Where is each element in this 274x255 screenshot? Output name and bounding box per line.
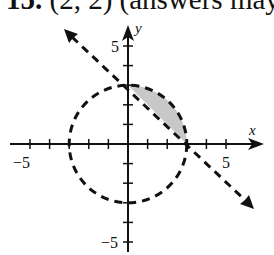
x-tick-label-neg5: −5 xyxy=(13,154,30,171)
graph: x y −5 5 5 −5 xyxy=(0,0,274,255)
y-axis-label: y xyxy=(133,20,142,36)
line-arrow-lower-icon xyxy=(240,195,254,209)
x-tick-label-5: 5 xyxy=(222,154,230,171)
y-tick-label-neg5: −5 xyxy=(101,234,118,251)
dashed-line xyxy=(72,37,246,201)
x-axis-label: x xyxy=(248,122,256,138)
y-tick-label-5: 5 xyxy=(111,38,119,55)
